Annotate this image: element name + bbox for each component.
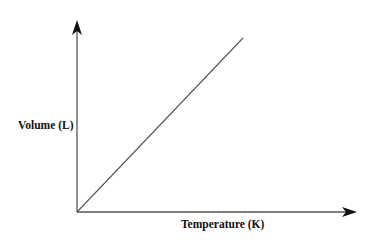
x-axis-label: Temperature (K) (181, 218, 264, 230)
y-axis-label: Volume (L) (18, 119, 73, 131)
data-line (77, 38, 243, 212)
